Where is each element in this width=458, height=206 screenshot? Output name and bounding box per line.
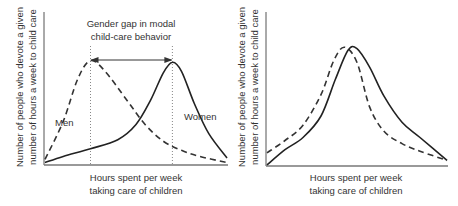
men-label: Men: [55, 117, 73, 128]
left-panel: Number of people who devote a given numb…: [14, 7, 228, 196]
x-axis-label-line2: taking care of children: [310, 185, 403, 196]
women-curve: [267, 46, 447, 165]
y-axis-label-line2: number of hours a week to child care: [249, 9, 260, 165]
right-panel: Number of people who devote a given numb…: [236, 7, 448, 196]
x-axis-label-line1: Hours spent per week: [310, 172, 403, 183]
y-axis-label-line1: Number of people who devote a given: [14, 7, 25, 167]
annotation-line2: child-care behavior: [91, 31, 171, 42]
y-axis-label-line1: Number of people who devote a given: [236, 7, 247, 167]
x-axis-label-line2: taking care of children: [90, 185, 183, 196]
x-axis-label-line1: Hours spent per week: [90, 172, 183, 183]
figure: Number of people who devote a given numb…: [0, 0, 458, 206]
women-label: Women: [184, 111, 217, 122]
y-axis-label-line2: number of hours a week to child care: [27, 9, 38, 165]
annotation-line1: Gender gap in modal: [87, 18, 176, 29]
